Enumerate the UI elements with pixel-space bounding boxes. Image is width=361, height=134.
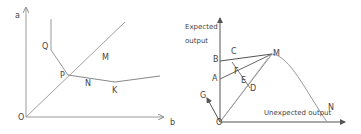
left-diagram — [26, 8, 163, 117]
label-point-q: Q — [42, 43, 48, 51]
label-point-n-right: N — [328, 104, 334, 112]
left-isoquant-q-p — [51, 19, 68, 75]
label-point-m-left: M — [102, 54, 109, 62]
label-expected-line1: Expected — [185, 24, 218, 31]
label-unexpected-output: Unexpected output — [264, 110, 331, 117]
label-point-a: A — [212, 75, 217, 83]
label-point-g: G — [200, 92, 206, 100]
label-expected-line2: output — [185, 38, 208, 45]
label-point-p: P — [60, 72, 65, 80]
label-point-c: C — [231, 48, 237, 56]
label-point-n-left: N — [85, 80, 91, 88]
label-point-m-right: M — [273, 50, 280, 58]
left-diagonal-ray — [26, 22, 125, 117]
label-point-e: E — [241, 77, 246, 85]
label-point-b: B — [213, 56, 219, 64]
label-point-k: K — [112, 87, 117, 95]
right-diagram — [207, 18, 345, 122]
label-point-f: F — [234, 68, 239, 76]
label-axis-b: b — [170, 119, 175, 127]
label-point-d: D — [250, 85, 256, 93]
label-origin-left: O — [18, 114, 24, 122]
left-line-p-k — [68, 75, 160, 82]
label-origin-right: O — [216, 119, 222, 127]
label-axis-a: a — [15, 12, 20, 20]
